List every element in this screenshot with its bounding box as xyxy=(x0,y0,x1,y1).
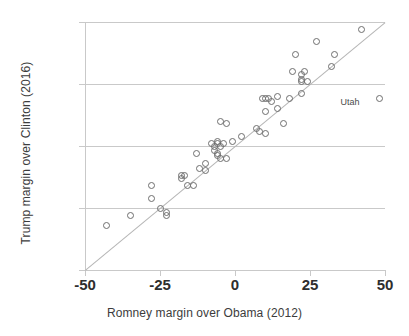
x-tick-label-0: 0 xyxy=(213,276,257,293)
gridline-y-50 xyxy=(85,22,385,23)
data-point xyxy=(262,130,269,137)
data-point xyxy=(376,95,383,102)
data-point xyxy=(274,93,281,100)
data-point xyxy=(181,172,188,179)
x-tick-label--25: -25 xyxy=(138,276,182,293)
x-tick-label-25: 25 xyxy=(288,276,332,293)
data-point xyxy=(127,212,134,219)
y-tick-0 xyxy=(79,146,85,147)
data-point xyxy=(331,51,338,58)
data-point xyxy=(148,182,155,189)
data-point xyxy=(238,133,245,140)
data-point xyxy=(223,155,230,162)
data-point xyxy=(190,182,197,189)
y-tick-25 xyxy=(79,84,85,85)
data-point xyxy=(328,63,335,70)
data-point xyxy=(262,108,269,115)
data-point xyxy=(358,26,365,33)
plot-area: Utah xyxy=(85,22,385,270)
gridline-y--25 xyxy=(85,208,385,209)
data-point xyxy=(103,222,110,229)
data-point xyxy=(268,98,275,105)
data-point xyxy=(286,95,293,102)
gridline-y-25 xyxy=(85,84,385,85)
x-axis-title: Romney margin over Obama (2012) xyxy=(0,306,409,320)
data-point xyxy=(304,78,311,85)
data-point xyxy=(193,150,200,157)
data-point xyxy=(202,160,209,167)
data-point xyxy=(280,120,287,127)
chart-title xyxy=(110,0,310,7)
data-point xyxy=(274,105,281,112)
y-tick-50 xyxy=(79,22,85,23)
data-point xyxy=(223,120,230,127)
data-point xyxy=(292,51,299,58)
data-point xyxy=(289,68,296,75)
x-tick-label--50: -50 xyxy=(63,276,107,293)
y-axis-title: Trump margin over Clinton (2016) xyxy=(19,23,33,283)
data-point xyxy=(202,167,209,174)
data-point xyxy=(313,38,320,45)
x-tick-label-50: 50 xyxy=(363,276,407,293)
y-tick--25 xyxy=(79,208,85,209)
scatter-chart: Utah Romney margin over Obama (2012) Tru… xyxy=(0,0,409,336)
data-point xyxy=(229,138,236,145)
annotation-utah: Utah xyxy=(341,97,360,107)
data-point xyxy=(298,90,305,97)
data-point xyxy=(220,140,227,147)
data-point xyxy=(163,212,170,219)
data-point xyxy=(148,195,155,202)
data-point xyxy=(301,68,308,75)
